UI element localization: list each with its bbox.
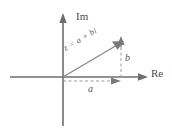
imaginary-component-arrowhead-icon: [117, 36, 124, 45]
real-component-label: a: [88, 84, 93, 94]
argand-diagram-figure: Im Re z = a + bi b a: [0, 0, 172, 131]
real-axis-label: Re: [151, 68, 163, 79]
imaginary-axis-arrowhead-icon: [59, 13, 66, 23]
imaginary-axis-label: Im: [76, 11, 88, 22]
real-axis-arrowhead-icon: [138, 73, 148, 80]
imaginary-component-label: b: [125, 53, 130, 63]
real-component-arrowhead-icon: [111, 78, 121, 85]
